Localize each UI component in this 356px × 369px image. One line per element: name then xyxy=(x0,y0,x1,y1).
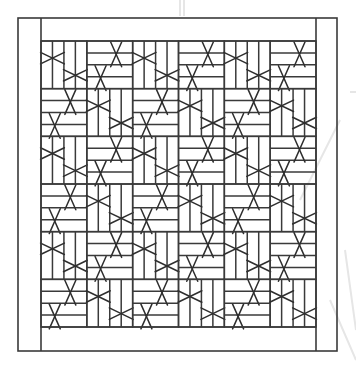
vertical-slat-block xyxy=(270,279,317,327)
horizontal-slat-block xyxy=(224,279,270,329)
lattice-panel-diagram xyxy=(0,0,356,369)
vertical-slat-block xyxy=(132,136,179,184)
horizontal-slat-block xyxy=(224,89,270,139)
vertical-slat-block xyxy=(86,184,133,232)
vertical-slat-block xyxy=(132,41,179,89)
horizontal-slat-block xyxy=(133,279,179,329)
vertical-slat-block xyxy=(270,89,317,137)
horizontal-slat-block xyxy=(41,184,87,234)
background-watermark xyxy=(180,0,356,360)
vertical-slat-block xyxy=(132,232,179,280)
vertical-slat-block xyxy=(41,41,88,89)
horizontal-slat-block xyxy=(224,184,270,234)
vertical-slat-block xyxy=(41,136,88,184)
horizontal-slat-block xyxy=(179,41,225,91)
vertical-slat-block xyxy=(86,279,133,327)
watermark-stroke xyxy=(300,92,356,360)
horizontal-slat-block xyxy=(133,184,179,234)
vertical-slat-block xyxy=(178,184,225,232)
vertical-slat-block xyxy=(224,136,271,184)
vertical-slat-block xyxy=(41,232,88,280)
horizontal-slat-block xyxy=(179,232,225,282)
vertical-slat-block xyxy=(178,89,225,137)
horizontal-slat-block xyxy=(133,89,179,139)
horizontal-slat-block xyxy=(270,41,316,91)
horizontal-slat-block xyxy=(41,279,87,329)
vertical-slat-block xyxy=(224,41,271,89)
vertical-slat-block xyxy=(224,232,271,280)
vertical-slat-block xyxy=(86,89,133,137)
horizontal-slat-block xyxy=(41,89,87,139)
horizontal-slat-block xyxy=(179,136,225,186)
vertical-slat-block xyxy=(270,184,317,232)
horizontal-slat-block xyxy=(87,232,133,282)
horizontal-slat-block xyxy=(87,41,133,91)
horizontal-slat-block xyxy=(87,136,133,186)
vertical-slat-block xyxy=(178,279,225,327)
watermark-stroke xyxy=(180,0,184,16)
lattice-grid xyxy=(41,41,317,329)
horizontal-slat-block xyxy=(270,136,316,186)
horizontal-slat-block xyxy=(270,232,316,282)
